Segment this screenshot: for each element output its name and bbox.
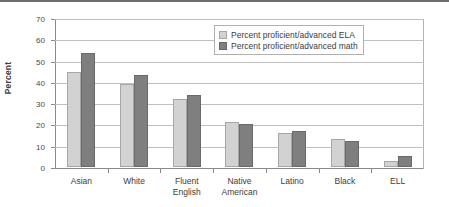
y-axis-tick-label: 0	[41, 164, 45, 173]
chart-legend: Percent proficient/advanced ELAPercent p…	[214, 25, 364, 55]
x-axis-separator-tick	[371, 168, 372, 173]
x-axis-category-label: Latino	[266, 176, 319, 187]
bar	[345, 141, 359, 167]
x-axis-line	[55, 168, 424, 169]
x-axis-category-label: Native American	[213, 176, 266, 197]
bar	[384, 161, 398, 167]
legend-swatch-ela	[219, 31, 227, 39]
x-axis-category-label: Asian	[55, 176, 108, 187]
bar	[134, 75, 148, 167]
legend-item: Percent proficient/advanced math	[219, 40, 358, 51]
y-axis-tick-label: 50	[36, 57, 45, 66]
legend-label: Percent proficient/advanced ELA	[231, 30, 355, 40]
x-axis-separator-tick	[266, 168, 267, 173]
bar-chart-figure: Percent 010203040506070 AsianWhiteFluent…	[0, 0, 449, 207]
legend-swatch-math	[219, 42, 227, 50]
y-axis-tick-label: 20	[36, 121, 45, 130]
y-axis-title: Percent	[3, 48, 13, 108]
legend-label: Percent proficient/advanced math	[231, 41, 358, 51]
bar	[278, 133, 292, 167]
x-axis-category-label: Fluent English	[160, 176, 213, 197]
bar	[292, 131, 306, 167]
bar	[67, 72, 81, 167]
legend-item: Percent proficient/advanced ELA	[219, 29, 358, 40]
y-axis-tick-label: 60	[36, 36, 45, 45]
bar	[331, 139, 345, 167]
bar-group	[160, 18, 213, 167]
y-axis-tick-label: 30	[36, 100, 45, 109]
bar-group	[55, 18, 108, 167]
x-axis-separator-tick	[319, 168, 320, 173]
bar	[81, 53, 95, 167]
bar	[225, 122, 239, 167]
bar-group	[108, 18, 161, 167]
y-axis-tick-label: 10	[36, 142, 45, 151]
y-axis-tick: 0	[51, 168, 55, 169]
x-axis-category-label: Black	[319, 176, 372, 187]
bar	[120, 84, 134, 167]
bar	[173, 99, 187, 167]
x-axis-category-label: White	[108, 176, 161, 187]
bar	[398, 156, 412, 167]
x-axis-separator-tick	[160, 168, 161, 173]
bar	[239, 124, 253, 167]
x-axis-separator-tick	[213, 168, 214, 173]
x-axis-category-label: ELL	[371, 176, 424, 187]
y-axis-tick-label: 40	[36, 78, 45, 87]
y-axis-tick-label: 70	[36, 15, 45, 24]
bar-group	[371, 18, 424, 167]
top-divider-rule	[0, 0, 449, 2]
bar	[187, 95, 201, 167]
x-axis-separator-tick	[108, 168, 109, 173]
